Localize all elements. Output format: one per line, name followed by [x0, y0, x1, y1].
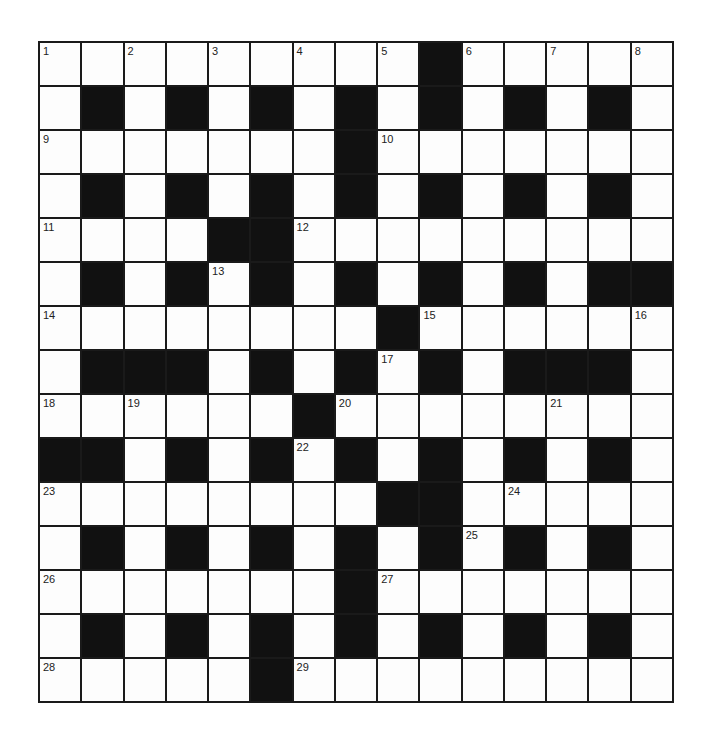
- answer-cell[interactable]: [547, 219, 587, 261]
- answer-cell[interactable]: [209, 87, 249, 129]
- answer-cell[interactable]: 29: [294, 659, 334, 701]
- answer-cell[interactable]: [209, 131, 249, 173]
- answer-cell[interactable]: [547, 527, 587, 569]
- answer-cell[interactable]: 8: [632, 43, 672, 85]
- answer-cell[interactable]: [463, 439, 503, 481]
- answer-cell[interactable]: [82, 219, 122, 261]
- answer-cell[interactable]: [505, 307, 545, 349]
- answer-cell[interactable]: [40, 263, 80, 305]
- answer-cell[interactable]: [463, 87, 503, 129]
- answer-cell[interactable]: [294, 87, 334, 129]
- answer-cell[interactable]: [294, 571, 334, 613]
- answer-cell[interactable]: [505, 395, 545, 437]
- answer-cell[interactable]: [209, 351, 249, 393]
- answer-cell[interactable]: 26: [40, 571, 80, 613]
- answer-cell[interactable]: [632, 87, 672, 129]
- answer-cell[interactable]: [82, 571, 122, 613]
- answer-cell[interactable]: 28: [40, 659, 80, 701]
- answer-cell[interactable]: [632, 131, 672, 173]
- answer-cell[interactable]: [589, 483, 629, 525]
- answer-cell[interactable]: [378, 659, 418, 701]
- answer-cell[interactable]: 7: [547, 43, 587, 85]
- answer-cell[interactable]: [82, 395, 122, 437]
- answer-cell[interactable]: [251, 307, 291, 349]
- answer-cell[interactable]: [547, 175, 587, 217]
- answer-cell[interactable]: [589, 43, 629, 85]
- answer-cell[interactable]: [589, 307, 629, 349]
- answer-cell[interactable]: [209, 527, 249, 569]
- answer-cell[interactable]: [378, 263, 418, 305]
- answer-cell[interactable]: [167, 395, 207, 437]
- answer-cell[interactable]: [378, 175, 418, 217]
- answer-cell[interactable]: 9: [40, 131, 80, 173]
- answer-cell[interactable]: [589, 395, 629, 437]
- answer-cell[interactable]: [378, 439, 418, 481]
- answer-cell[interactable]: [82, 307, 122, 349]
- answer-cell[interactable]: [209, 439, 249, 481]
- answer-cell[interactable]: [294, 175, 334, 217]
- answer-cell[interactable]: 22: [294, 439, 334, 481]
- answer-cell[interactable]: [294, 615, 334, 657]
- answer-cell[interactable]: [82, 43, 122, 85]
- answer-cell[interactable]: [547, 307, 587, 349]
- answer-cell[interactable]: [420, 659, 460, 701]
- answer-cell[interactable]: [632, 175, 672, 217]
- answer-cell[interactable]: [125, 439, 165, 481]
- answer-cell[interactable]: [125, 87, 165, 129]
- answer-cell[interactable]: [125, 615, 165, 657]
- answer-cell[interactable]: 13: [209, 263, 249, 305]
- answer-cell[interactable]: [632, 571, 672, 613]
- answer-cell[interactable]: [125, 307, 165, 349]
- answer-cell[interactable]: [547, 483, 587, 525]
- answer-cell[interactable]: [505, 43, 545, 85]
- answer-cell[interactable]: [209, 483, 249, 525]
- answer-cell[interactable]: 12: [294, 219, 334, 261]
- answer-cell[interactable]: [40, 351, 80, 393]
- answer-cell[interactable]: [82, 131, 122, 173]
- answer-cell[interactable]: [336, 307, 376, 349]
- answer-cell[interactable]: 20: [336, 395, 376, 437]
- answer-cell[interactable]: [420, 395, 460, 437]
- answer-cell[interactable]: [463, 351, 503, 393]
- answer-cell[interactable]: [82, 659, 122, 701]
- answer-cell[interactable]: [336, 219, 376, 261]
- answer-cell[interactable]: [420, 571, 460, 613]
- answer-cell[interactable]: [251, 395, 291, 437]
- answer-cell[interactable]: [378, 219, 418, 261]
- answer-cell[interactable]: [463, 571, 503, 613]
- answer-cell[interactable]: [209, 395, 249, 437]
- answer-cell[interactable]: [209, 615, 249, 657]
- answer-cell[interactable]: 2: [125, 43, 165, 85]
- answer-cell[interactable]: 18: [40, 395, 80, 437]
- answer-cell[interactable]: [463, 263, 503, 305]
- answer-cell[interactable]: [294, 483, 334, 525]
- answer-cell[interactable]: [125, 571, 165, 613]
- answer-cell[interactable]: [125, 263, 165, 305]
- answer-cell[interactable]: [463, 131, 503, 173]
- answer-cell[interactable]: [632, 351, 672, 393]
- answer-cell[interactable]: 6: [463, 43, 503, 85]
- answer-cell[interactable]: [167, 43, 207, 85]
- answer-cell[interactable]: [463, 615, 503, 657]
- answer-cell[interactable]: [589, 131, 629, 173]
- answer-cell[interactable]: [632, 659, 672, 701]
- answer-cell[interactable]: [547, 615, 587, 657]
- answer-cell[interactable]: [632, 219, 672, 261]
- answer-cell[interactable]: [167, 307, 207, 349]
- answer-cell[interactable]: [547, 571, 587, 613]
- answer-cell[interactable]: [420, 131, 460, 173]
- answer-cell[interactable]: [167, 483, 207, 525]
- answer-cell[interactable]: [209, 175, 249, 217]
- answer-cell[interactable]: 17: [378, 351, 418, 393]
- answer-cell[interactable]: [632, 527, 672, 569]
- answer-cell[interactable]: [294, 263, 334, 305]
- answer-cell[interactable]: [589, 571, 629, 613]
- answer-cell[interactable]: [463, 395, 503, 437]
- answer-cell[interactable]: [209, 659, 249, 701]
- answer-cell[interactable]: [420, 219, 460, 261]
- answer-cell[interactable]: 27: [378, 571, 418, 613]
- answer-cell[interactable]: [463, 307, 503, 349]
- answer-cell[interactable]: [167, 131, 207, 173]
- answer-cell[interactable]: [505, 219, 545, 261]
- answer-cell[interactable]: [632, 483, 672, 525]
